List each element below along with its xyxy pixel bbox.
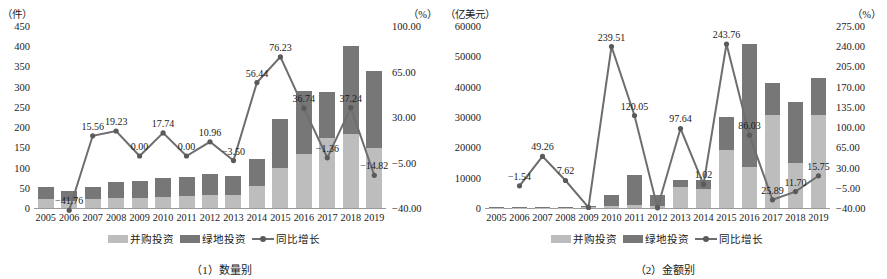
y-axis-tick-right: 135.00 (836, 101, 884, 112)
growth-line-series (34, 26, 386, 208)
data-point-label: 15.56 (81, 121, 104, 132)
panel-caption-amount: （2）金额别 (443, 261, 887, 277)
data-point-label: 11.70 (784, 177, 806, 188)
y-axis-tick-left: 50000 (441, 51, 481, 62)
x-axis-tick-label: 2010 (151, 212, 174, 223)
y-axis-tick-left: 0 (0, 203, 30, 214)
legend-swatch-greenfield (623, 235, 643, 243)
data-point-label: −1.36 (316, 143, 339, 154)
legend-label: 同比增长 (276, 231, 320, 246)
legend-item: 并购投资 (551, 231, 617, 246)
data-point-label: −41.76 (55, 195, 83, 206)
y-axis-tick-left: 10000 (441, 172, 481, 183)
legend-amount: 并购投资绿地投资同比增长 (551, 231, 763, 246)
data-point-label: −1.54 (508, 171, 531, 182)
data-point-label: 15.75 (807, 161, 830, 172)
legend-item: 同比增长 (695, 231, 763, 246)
y-axis-tick-left: 30000 (441, 112, 481, 123)
y-axis-tick-left: 100 (0, 162, 30, 173)
y-axis-tick-left: 350 (0, 61, 30, 72)
x-axis-tick-label: 2019 (363, 212, 386, 223)
data-point-label: 120.05 (621, 101, 649, 112)
x-axis-tick-label: 2013 (222, 212, 245, 223)
x-axis-tick-label: 2006 (57, 212, 80, 223)
right-axis-unit-label: （%） (852, 6, 881, 21)
legend-label: 并购投资 (130, 231, 174, 246)
data-point-label: −14.82 (360, 160, 388, 171)
data-point-label: 17.74 (152, 118, 175, 129)
legend-swatch-greenfield (180, 235, 200, 243)
y-axis-tick-left: 150 (0, 142, 30, 153)
data-point-label: 49.26 (531, 141, 554, 152)
data-point-label: 36.74 (293, 93, 316, 104)
x-axis-tick-label: 2014 (692, 212, 715, 223)
y-axis-tick-right: −5.00 (392, 157, 438, 168)
legend-line-marker-icon (252, 235, 274, 243)
chart-panel-amount: （亿美元） （%） 010000200003000040000500006000… (443, 0, 887, 279)
y-axis-tick-left: 300 (0, 81, 30, 92)
y-axis-tick-left: 200 (0, 122, 30, 133)
x-axis-tick-label: 2018 (339, 212, 362, 223)
y-axis-tick-left: 0 (441, 203, 481, 214)
data-point-label: 19.23 (105, 116, 128, 127)
x-axis-tick-label: 2005 (485, 212, 508, 223)
x-axis-tick-label: 2015 (715, 212, 738, 223)
data-point-label: 76.23 (269, 42, 292, 53)
y-axis-tick-left: 40000 (441, 81, 481, 92)
y-axis-tick-right: −40.00 (836, 203, 884, 214)
plot-area-amount: 0100002000030000400005000060000−40.00−5.… (485, 26, 830, 208)
y-axis-tick-right: 275.00 (836, 21, 884, 32)
x-axis-tick-label: 2016 (738, 212, 761, 223)
data-point-label: 0.00 (131, 141, 149, 152)
x-axis-tick-label: 2009 (577, 212, 600, 223)
y-axis-tick-right: 30.00 (836, 162, 884, 173)
y-axis-tick-left: 60000 (441, 21, 481, 32)
plot-area-quantity: 050100150200250300350400450−40.00−5.0030… (34, 26, 386, 208)
x-axis-tick-label: 2019 (807, 212, 830, 223)
data-point-label: 0.00 (178, 141, 196, 152)
x-axis-tick-label: 2018 (784, 212, 807, 223)
x-axis-line (34, 208, 386, 209)
y-axis-tick-left: 50 (0, 182, 30, 193)
y-axis-tick-right: 100.00 (392, 21, 438, 32)
data-point-label: 37.24 (340, 93, 363, 104)
chart-panel-quantity: （件） （%） 050100150200250300350400450−40.0… (0, 0, 443, 279)
y-axis-tick-right: −40.00 (392, 203, 438, 214)
data-point-label: 97.64 (669, 113, 692, 124)
x-axis-tick-label: 2012 (646, 212, 669, 223)
data-point-label: 7.62 (557, 165, 575, 176)
data-point-label: 243.76 (713, 29, 741, 40)
x-axis-tick-label: 2005 (34, 212, 57, 223)
legend-item: 绿地投资 (180, 231, 246, 246)
x-axis-tick-label: 2009 (128, 212, 151, 223)
legend-quantity: 并购投资绿地投资同比增长 (108, 231, 320, 246)
y-axis-tick-left: 450 (0, 21, 30, 32)
legend-label: 绿地投资 (202, 231, 246, 246)
data-point-label: 10.96 (199, 127, 222, 138)
figure-container: （件） （%） 050100150200250300350400450−40.0… (0, 0, 887, 279)
x-axis-tick-label: 2016 (292, 212, 315, 223)
data-point-label: 86.03 (738, 120, 761, 131)
y-axis-tick-right: 30.00 (392, 112, 438, 123)
legend-swatch-merger (551, 235, 571, 243)
growth-line-series (485, 26, 830, 208)
y-axis-tick-left: 20000 (441, 142, 481, 153)
x-axis-tick-label: 2010 (600, 212, 623, 223)
x-axis-tick-label: 2017 (761, 212, 784, 223)
x-axis-tick-label: 2011 (623, 212, 646, 223)
right-axis-unit-label: （%） (408, 6, 437, 21)
legend-item: 并购投资 (108, 231, 174, 246)
x-axis-tick-label: 2017 (316, 212, 339, 223)
x-axis-tick-label: 2006 (508, 212, 531, 223)
legend-label: 同比增长 (719, 231, 763, 246)
data-point-label: 25.89 (761, 185, 784, 196)
x-axis-tick-label: 2008 (554, 212, 577, 223)
data-point-label: 56.44 (246, 68, 269, 79)
y-axis-tick-right: 205.00 (836, 61, 884, 72)
legend-label: 并购投资 (573, 231, 617, 246)
y-axis-tick-right: 240.00 (836, 41, 884, 52)
data-point-label: 1.02 (695, 169, 713, 180)
legend-label: 绿地投资 (645, 231, 689, 246)
y-axis-tick-right: 100.00 (836, 122, 884, 133)
left-axis-unit-label: （件） (2, 6, 32, 21)
